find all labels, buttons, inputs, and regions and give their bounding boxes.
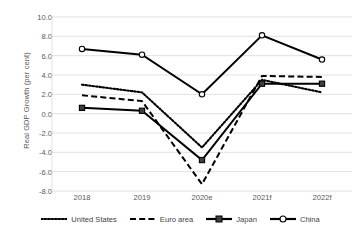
chart-legend: United StatesEuro areaJapanChina (0, 208, 361, 230)
data-point-marker (259, 81, 264, 86)
legend-swatch-solid (270, 214, 296, 224)
legend-label: Japan (236, 215, 257, 224)
x-tick-label: 2019 (134, 193, 151, 202)
legend-label: Euro area (160, 215, 193, 224)
legend-item-euro-area[interactable]: Euro area (130, 214, 193, 224)
legend-label: China (300, 215, 320, 224)
legend-swatch-dashed (130, 214, 156, 224)
data-point-marker (79, 105, 84, 110)
data-point-marker (319, 81, 324, 86)
data-point-marker (319, 57, 324, 62)
legend-item-china[interactable]: China (270, 214, 320, 224)
data-point-marker (199, 92, 204, 97)
data-point-marker (139, 52, 144, 57)
legend-swatch-solid (206, 214, 232, 224)
x-tick-label: 2022f (312, 193, 331, 202)
x-tick-label: 2018 (74, 193, 91, 202)
data-point-marker (199, 157, 204, 162)
gdp-growth-line-chart: Real GDP Growth (per cent) 10.08.06.04.0… (0, 0, 361, 233)
data-point-marker (259, 33, 264, 38)
legend-label: United States (71, 215, 117, 224)
legend-item-japan[interactable]: Japan (206, 214, 257, 224)
x-tick-label: 2021f (252, 193, 271, 202)
data-point-marker (79, 46, 84, 51)
legend-item-united-states[interactable]: United States (41, 214, 117, 224)
plot-area (0, 0, 361, 233)
x-tick-label: 2020e (191, 193, 212, 202)
data-point-marker (139, 108, 144, 113)
legend-swatch-dotted (41, 214, 67, 224)
